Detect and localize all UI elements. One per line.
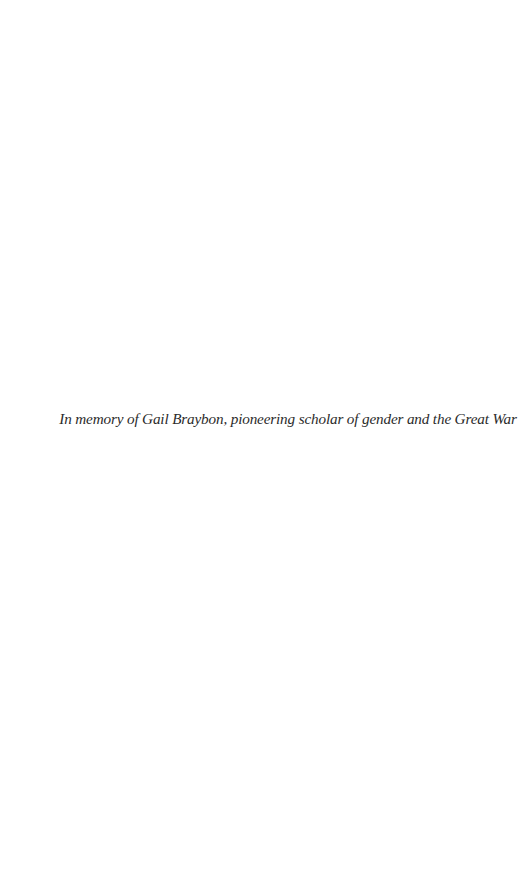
dedication-text: In memory of Gail Braybon, pioneering sc… [0, 409, 528, 429]
dedication-page: In memory of Gail Braybon, pioneering sc… [0, 0, 528, 883]
